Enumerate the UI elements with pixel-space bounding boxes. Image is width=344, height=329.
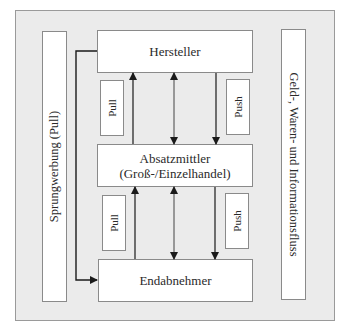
tag-lower-pull-label: Pull <box>108 214 120 232</box>
node-absatzmittler-sublabel: (Groß-/Einzelhandel) <box>119 166 230 181</box>
node-absatzmittler: Absatzmittler (Groß-/Einzelhandel) <box>97 144 253 187</box>
tag-upper-push: Push <box>226 79 250 135</box>
node-absatzmittler-label: Absatzmittler <box>140 151 211 166</box>
flow-column: Geld-, Waren- und Informationsfluss <box>281 29 306 300</box>
tag-lower-pull: Pull <box>102 195 126 251</box>
tag-lower-push: Push <box>225 193 249 249</box>
node-endabnehmer-label: Endabnehmer <box>139 273 211 288</box>
tag-upper-push-label: Push <box>232 96 244 117</box>
tag-upper-pull-label: Pull <box>106 99 118 117</box>
node-hersteller: Hersteller <box>97 30 253 73</box>
tag-lower-push-label: Push <box>231 210 243 231</box>
sprungwerbung-label: Sprungwerbung (Pull) <box>47 111 62 222</box>
flow-label: Geld-, Waren- und Informationsfluss <box>286 72 301 256</box>
node-hersteller-label: Hersteller <box>149 44 200 59</box>
tag-upper-pull: Pull <box>100 80 124 136</box>
node-endabnehmer: Endabnehmer <box>98 259 253 302</box>
sprungwerbung-column: Sprungwerbung (Pull) <box>42 31 67 302</box>
